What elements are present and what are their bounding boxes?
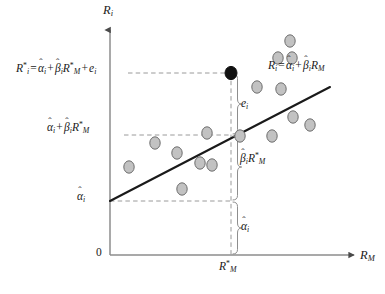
scatter-point bbox=[150, 137, 160, 149]
residual-brace-label: ei bbox=[241, 98, 248, 110]
x-axis-label: RM bbox=[360, 249, 375, 262]
scatter-point bbox=[252, 81, 262, 93]
regression-line-equation-label: Ri=αˆi+βˆiRM bbox=[268, 60, 324, 72]
intercept-axis-label: αˆi bbox=[77, 191, 85, 203]
scatter-point bbox=[195, 157, 205, 169]
scatter-point bbox=[288, 111, 298, 123]
scatter-point bbox=[276, 83, 286, 95]
scatter-point bbox=[285, 35, 295, 47]
observed-return-label: R*i=αˆi+βˆiR*M+ei bbox=[16, 63, 96, 75]
scatter-point bbox=[124, 161, 134, 173]
regression-scatter-figure: Ri RM 0 R*i=αˆi+βˆiR*M+ei αˆi+βˆiR*M αˆi… bbox=[0, 0, 385, 294]
plot-canvas bbox=[0, 0, 385, 294]
scatter-point bbox=[267, 130, 277, 142]
fitted-return-label: αˆi+βˆiR*M bbox=[47, 122, 89, 134]
x-axis-tick-label: R*M bbox=[219, 261, 236, 273]
scatter-point bbox=[207, 159, 217, 171]
highlighted-observation-point bbox=[225, 66, 237, 79]
scatter-point bbox=[177, 183, 187, 195]
scatter-point bbox=[305, 119, 315, 131]
brace-systematic bbox=[233, 136, 242, 200]
origin-label: 0 bbox=[96, 247, 102, 259]
scatter-point bbox=[172, 147, 182, 159]
systematic-brace-label: βˆiR*M bbox=[240, 153, 265, 165]
scatter-point bbox=[235, 130, 245, 142]
intercept-brace-label: αˆi bbox=[241, 221, 249, 233]
scatter-point bbox=[202, 127, 212, 139]
y-axis-label: Ri bbox=[103, 4, 113, 17]
regression-line bbox=[110, 87, 330, 201]
